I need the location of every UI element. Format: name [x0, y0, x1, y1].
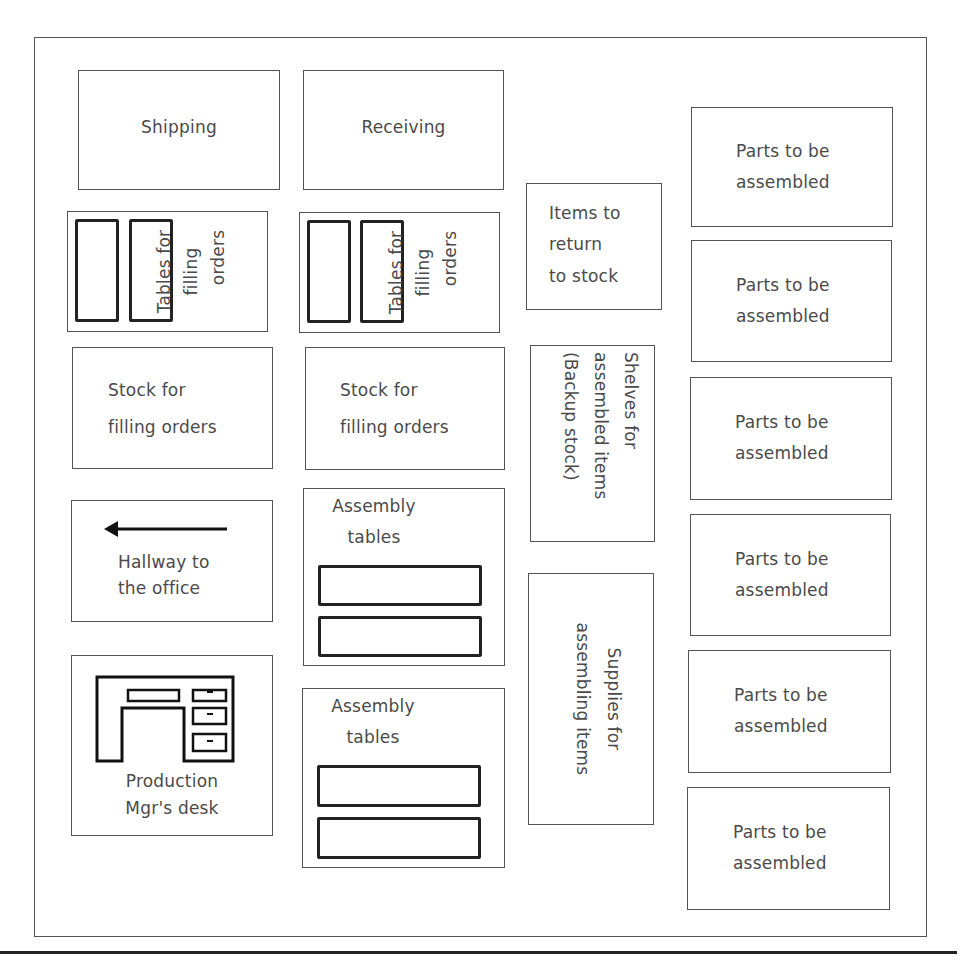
room-parts-to-be-assembled: Parts to be assembled [688, 650, 891, 773]
room-production-mgr-desk: Production Mgr's desk [71, 655, 273, 836]
room-label: Shipping [79, 113, 279, 143]
room-parts-to-be-assembled: Parts to be assembled [690, 514, 891, 636]
room-parts-to-be-assembled: Parts to be assembled [691, 107, 893, 227]
table-shape [307, 220, 351, 323]
room-parts-to-be-assembled: Parts to be assembled [691, 240, 892, 362]
label-line: Shelves for [615, 352, 645, 500]
label-line: Parts to be [733, 817, 827, 848]
room-label-rotated: Tables for filling orders [151, 202, 246, 342]
label-line: assembled [733, 848, 827, 879]
label-line: Parts to be [736, 270, 830, 301]
label-line: assembled [736, 301, 830, 332]
label-line: (Backup stock) [556, 352, 586, 500]
room-shipping: Shipping [78, 70, 280, 190]
room-shelves-backup-stock: Shelves for assembled items (Backup stoc… [530, 345, 655, 542]
label-line: Parts to be [734, 680, 828, 711]
label-line: assembled [735, 575, 829, 606]
label-line: orders [205, 202, 232, 342]
desk-icon [94, 674, 236, 766]
label-line: tables [304, 522, 444, 553]
room-tables-filling-orders-2: Tables for filling orders [299, 212, 500, 333]
label-line: filling [178, 202, 205, 342]
label-line: assembled [734, 711, 828, 742]
label-line: Mgr's desk [72, 795, 272, 822]
label-line: filling orders [340, 409, 449, 446]
room-label: Receiving [304, 113, 503, 143]
room-assembly-tables-1: Assembly tables [303, 488, 505, 666]
room-stock-filling-orders-1: Stock for filling orders [72, 347, 273, 469]
label-line: Stock for [108, 372, 217, 409]
label-line: filling [410, 203, 437, 343]
label-line: filling orders [108, 409, 217, 446]
label-line: Production [72, 768, 272, 795]
label-line: the office [118, 575, 210, 601]
room-receiving: Receiving [303, 70, 504, 190]
label-line: Tables for [383, 203, 410, 343]
label-line: tables [303, 722, 443, 753]
room-parts-to-be-assembled: Parts to be assembled [687, 787, 890, 910]
label-line: Parts to be [735, 407, 829, 438]
label-line: Stock for [340, 372, 449, 409]
label-line: orders [437, 203, 464, 343]
label-line: to stock [549, 261, 621, 292]
room-hallway-to-office: Hallway to the office [71, 500, 273, 622]
room-label-rotated: Supplies for assembling items [529, 574, 655, 824]
room-items-to-return: Items to return to stock [526, 183, 662, 310]
label-line: assembled [736, 167, 830, 198]
label-line: Parts to be [735, 544, 829, 575]
label-line: Assembly [303, 691, 443, 722]
table-shape [318, 616, 482, 657]
table-shape [317, 817, 481, 859]
label-line: Items to [549, 198, 621, 229]
room-assembly-tables-2: Assembly tables [302, 688, 505, 868]
label-line: Supplies for [598, 574, 629, 824]
label-line: Hallway to [118, 549, 210, 575]
arrow-left-icon [102, 519, 232, 539]
label-line: Parts to be [736, 136, 830, 167]
room-supplies-assembling: Supplies for assembling items [528, 573, 654, 825]
label-line: assembled [735, 438, 829, 469]
table-shape [317, 765, 481, 807]
room-parts-to-be-assembled: Parts to be assembled [690, 377, 892, 500]
label-line: assembled items [586, 352, 616, 500]
label-line: assembling items [568, 574, 599, 824]
room-label-rotated: Tables for filling orders [383, 203, 478, 343]
table-shape [75, 219, 119, 322]
label-line: Assembly [304, 491, 444, 522]
table-shape [318, 565, 482, 606]
label-line: Tables for [151, 202, 178, 342]
room-label-rotated: Shelves for assembled items (Backup stoc… [531, 342, 651, 542]
separator-rule [0, 951, 957, 954]
room-tables-filling-orders-1: Tables for filling orders [67, 211, 268, 332]
label-line: return [549, 229, 621, 260]
room-stock-filling-orders-2: Stock for filling orders [305, 347, 505, 470]
